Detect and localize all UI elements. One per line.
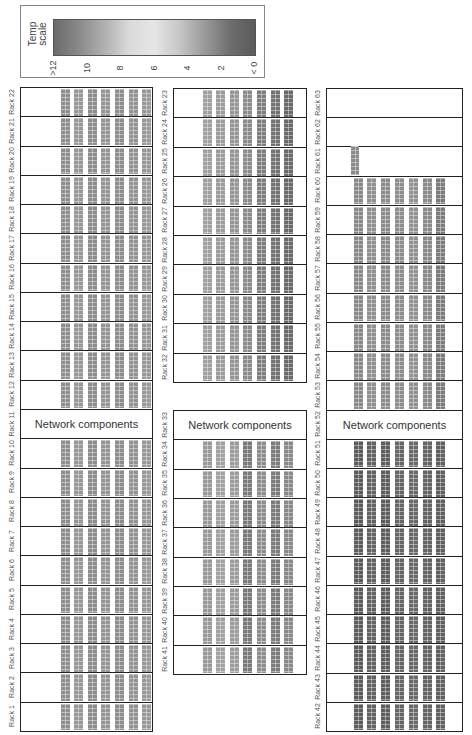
rack-label: Rack 22 xyxy=(3,87,19,116)
server-temperature-strip xyxy=(230,355,239,382)
rack-12[interactable] xyxy=(20,380,153,411)
rack-36[interactable] xyxy=(173,498,307,529)
server-temperature-strip xyxy=(381,558,390,585)
server-temperature-strip xyxy=(142,352,151,379)
server-temperature-strip xyxy=(216,266,225,293)
rack-53[interactable] xyxy=(326,380,463,411)
rack-26[interactable] xyxy=(173,176,307,207)
rack-46[interactable] xyxy=(326,585,463,616)
rack-8[interactable] xyxy=(20,497,153,528)
rack-40[interactable] xyxy=(173,615,307,646)
rack-55[interactable] xyxy=(326,322,463,353)
server-temperature-strip xyxy=(423,470,432,497)
rack-30[interactable] xyxy=(173,294,307,325)
rack-label: Rack 55 xyxy=(309,322,325,351)
rack-19[interactable] xyxy=(20,175,153,206)
rack-24[interactable] xyxy=(173,117,307,148)
rack-label: Rack 52 xyxy=(309,410,325,439)
rack-7[interactable] xyxy=(20,526,153,557)
rack-37[interactable] xyxy=(173,527,307,558)
rack-13[interactable] xyxy=(20,350,153,381)
rack-43[interactable] xyxy=(326,673,463,704)
rack-6[interactable] xyxy=(20,555,153,586)
rack-25[interactable] xyxy=(173,147,307,178)
rack-5[interactable] xyxy=(20,585,153,616)
rack-57[interactable] xyxy=(326,263,463,294)
server-temperature-strip xyxy=(88,177,97,204)
rack-label: Rack 2 xyxy=(3,672,19,701)
server-temperature-strip xyxy=(367,178,376,205)
rack-10[interactable] xyxy=(20,438,153,469)
rack-11[interactable]: Network components xyxy=(20,409,153,440)
rack-42[interactable] xyxy=(326,702,463,733)
rack-54[interactable] xyxy=(326,351,463,382)
server-temperature-strip xyxy=(436,499,445,526)
server-temperature-strip xyxy=(381,704,390,731)
server-temperature-strip xyxy=(395,207,404,234)
rack-29[interactable] xyxy=(173,264,307,295)
server-temperature-strip xyxy=(230,471,239,498)
rack-21[interactable] xyxy=(20,116,153,147)
network-components-label: Network components xyxy=(327,419,462,431)
rack-9[interactable] xyxy=(20,468,153,499)
rack-1[interactable] xyxy=(20,702,153,733)
rack-23[interactable] xyxy=(173,88,307,119)
server-temperature-strip xyxy=(74,323,83,350)
rack-60[interactable] xyxy=(326,176,463,207)
server-temperature-strip xyxy=(115,557,124,584)
rack-45[interactable] xyxy=(326,614,463,645)
rack-49[interactable] xyxy=(326,497,463,528)
rack-59[interactable] xyxy=(326,205,463,236)
rack-38[interactable] xyxy=(173,557,307,588)
rack-label: Rack 13 xyxy=(3,350,19,379)
rack-label: Rack 15 xyxy=(3,292,19,321)
server-temperature-strip xyxy=(257,149,266,176)
rack-51[interactable] xyxy=(326,439,463,470)
rack-44[interactable] xyxy=(326,643,463,674)
rack-47[interactable] xyxy=(326,556,463,587)
server-temperature-strip xyxy=(115,89,124,116)
rack-32[interactable] xyxy=(173,353,307,384)
rack-61[interactable] xyxy=(326,146,463,177)
server-temperature-strip xyxy=(436,675,445,702)
server-temperature-strip xyxy=(203,325,212,352)
rack-2[interactable] xyxy=(20,672,153,703)
server-temperature-strip xyxy=(88,89,97,116)
rack-39[interactable] xyxy=(173,586,307,617)
server-temperature-strip xyxy=(129,499,138,526)
rack-41[interactable] xyxy=(173,645,307,676)
rack-27[interactable] xyxy=(173,206,307,237)
rack-3[interactable] xyxy=(20,643,153,674)
rack-33[interactable]: Network components xyxy=(173,410,307,441)
rack-16[interactable] xyxy=(20,263,153,294)
legend-tick-label: < 0 xyxy=(249,62,259,75)
server-temperature-strip xyxy=(88,294,97,321)
rack-28[interactable] xyxy=(173,235,307,266)
rack-62[interactable] xyxy=(326,117,463,148)
server-temperature-strip xyxy=(284,441,293,468)
rack-31[interactable] xyxy=(173,323,307,354)
rack-18[interactable] xyxy=(20,204,153,235)
rack-63[interactable] xyxy=(326,88,463,119)
rack-35[interactable] xyxy=(173,469,307,500)
rack-56[interactable] xyxy=(326,293,463,324)
rack-50[interactable] xyxy=(326,468,463,499)
rack-4[interactable] xyxy=(20,614,153,645)
rack-34[interactable] xyxy=(173,439,307,470)
rack-20[interactable] xyxy=(20,146,153,177)
server-temperature-strip xyxy=(395,645,404,672)
rack-17[interactable] xyxy=(20,233,153,264)
rack-48[interactable] xyxy=(326,526,463,557)
server-temperature-strip xyxy=(257,296,266,323)
rack-label: Rack 48 xyxy=(309,526,325,555)
server-temperature-strip xyxy=(381,295,390,322)
rack-22[interactable] xyxy=(20,87,153,118)
rack-14[interactable] xyxy=(20,321,153,352)
server-temperature-strip xyxy=(142,645,151,672)
rack-58[interactable] xyxy=(326,234,463,265)
server-temperature-strip xyxy=(203,441,212,468)
rack-52[interactable]: Network components xyxy=(326,410,463,441)
server-temperature-strip xyxy=(74,118,83,145)
server-temperature-strip xyxy=(142,470,151,497)
rack-15[interactable] xyxy=(20,292,153,323)
